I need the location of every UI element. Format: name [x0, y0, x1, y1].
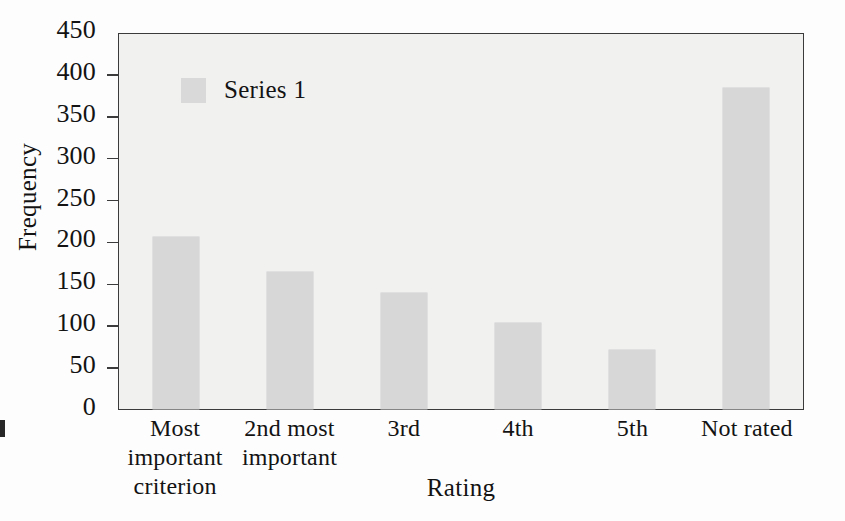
x-axis-category-line: important [232, 443, 346, 472]
x-axis-category-line: Not rated [690, 414, 804, 443]
bar[interactable] [495, 323, 541, 409]
y-axis-tick-mark [107, 284, 118, 286]
legend-label-series-1: Series 1 [224, 76, 306, 104]
y-axis-tick-label: 300 [56, 143, 96, 169]
y-axis-tick-label: 350 [56, 101, 96, 127]
y-axis-tick-label: 100 [56, 310, 96, 336]
plot-area: Series 1 [118, 33, 804, 410]
x-axis-category-line: 3rd [347, 414, 461, 443]
x-axis-category-line: 2nd most [232, 414, 346, 443]
y-axis-tick-mark [107, 367, 118, 369]
y-axis-tick-label: 400 [56, 59, 96, 85]
x-axis-category-line: Most [118, 414, 232, 443]
y-axis-tick-label: 50 [70, 352, 96, 378]
y-axis-tick-label: 150 [56, 268, 96, 294]
page-edge-fragment [0, 420, 5, 437]
y-axis-tick-mark [107, 325, 118, 327]
x-axis-title: Rating [118, 474, 804, 502]
chart-page: the other side of the page shows through… [0, 0, 845, 521]
bar[interactable] [153, 237, 199, 409]
bar-slot [689, 34, 803, 409]
x-axis-category-line: important [118, 443, 232, 472]
y-axis-title: Frequency [14, 107, 42, 287]
bar-slot [575, 34, 689, 409]
y-axis-tick-mark [107, 74, 118, 76]
chart-legend: Series 1 [181, 76, 306, 104]
bar[interactable] [723, 88, 769, 409]
y-axis-tick-label: 0 [83, 394, 96, 420]
bar-slot [347, 34, 461, 409]
y-axis-tick-mark [107, 158, 118, 160]
y-axis-tick-label: 450 [56, 17, 96, 43]
y-axis-tick-mark [107, 242, 118, 244]
x-axis-category-line: 5th [575, 414, 689, 443]
bar-slot [461, 34, 575, 409]
x-axis-category-line: 4th [461, 414, 575, 443]
y-axis-tick-mark [107, 200, 118, 202]
bar[interactable] [381, 293, 427, 409]
legend-color-swatch [181, 78, 206, 103]
y-axis: Frequency 050100150200250300350400450 [0, 33, 118, 410]
bar[interactable] [267, 272, 313, 409]
y-axis-tick-label: 250 [56, 185, 96, 211]
bar[interactable] [609, 350, 655, 409]
y-axis-tick-mark [107, 116, 118, 118]
y-axis-tick-label: 200 [56, 226, 96, 252]
